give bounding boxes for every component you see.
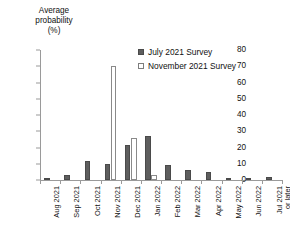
- x-axis-tick-label: Jun 2022: [255, 186, 263, 216]
- x-axis-tick-label: Nov 2021: [114, 186, 122, 218]
- x-axis-tick-mark: [181, 180, 182, 184]
- x-axis-tick-label: Apr 2022: [215, 186, 223, 216]
- legend-swatch-filled-dark-square-icon: [138, 49, 144, 55]
- y-axis-title-line-3: (%): [18, 26, 90, 36]
- y-axis-title-line-1: Average: [18, 6, 90, 16]
- legend-label-july: July 2021 Survey: [148, 48, 212, 57]
- x-axis-tick-mark: [80, 180, 81, 184]
- x-axis-tick-label: Aug 2021: [53, 186, 61, 218]
- x-axis-tick-label-line: Aug 2021: [53, 186, 61, 218]
- x-axis-tick-mark: [40, 180, 41, 184]
- bar: [85, 161, 91, 181]
- bar: [226, 178, 232, 180]
- x-axis-tick-label-line: May 2022: [235, 186, 243, 218]
- legend-item-november: November 2021 Survey: [138, 59, 236, 73]
- x-axis-tick-mark: [141, 180, 142, 184]
- bar: [105, 164, 111, 180]
- bar-chart: Average probability (%) 0102030405060708…: [0, 0, 290, 227]
- legend-label-november: November 2021 Survey: [148, 62, 236, 71]
- x-axis-tick-label: May 2022: [235, 186, 243, 218]
- legend-item-july: July 2021 Survey: [138, 45, 236, 59]
- y-axis-title: Average probability (%): [18, 6, 90, 37]
- x-axis-tick-mark: [282, 180, 283, 184]
- bar: [151, 175, 157, 180]
- x-axis-tick-label-line: Apr 2022: [215, 186, 223, 216]
- x-axis-tick-mark: [101, 180, 102, 184]
- x-axis-tick-label-line: or later: [285, 186, 290, 214]
- x-axis-tick-label-line: Jun 2022: [255, 186, 263, 216]
- x-axis-tick-mark: [242, 180, 243, 184]
- bar: [44, 178, 50, 180]
- x-axis-tick-label-line: Feb 2022: [174, 186, 182, 217]
- bar: [266, 177, 272, 180]
- y-axis-title-line-2: probability: [18, 16, 90, 26]
- x-axis-tick-label: Jul 2021or later: [276, 186, 290, 214]
- x-axis-tick-label-line: Dec 2021: [134, 186, 142, 218]
- x-axis-tick-mark: [262, 180, 263, 184]
- x-axis-tick-label: Oct 2021: [94, 186, 102, 216]
- x-axis-tick-label: Jan 2022: [154, 186, 162, 216]
- bar: [165, 165, 171, 180]
- bar: [246, 178, 252, 180]
- bar: [64, 175, 70, 180]
- x-axis-tick-label: Sep 2021: [73, 186, 81, 218]
- bar: [185, 170, 191, 180]
- bar: [131, 138, 137, 180]
- x-axis-tick-label-line: Jan 2022: [154, 186, 162, 216]
- x-axis-tick-mark: [201, 180, 202, 184]
- x-axis-tick-mark: [60, 180, 61, 184]
- bar: [125, 145, 131, 180]
- x-axis-tick-label: Feb 2022: [174, 186, 182, 217]
- x-axis-tick-label-line: Sep 2021: [73, 186, 81, 218]
- bar: [145, 136, 151, 180]
- x-axis-tick-mark: [161, 180, 162, 184]
- legend-swatch-open-white-square-icon: [138, 63, 144, 69]
- legend: July 2021 Survey November 2021 Survey: [138, 45, 236, 73]
- x-axis-tick-label: Mar 2022: [194, 186, 202, 217]
- x-axis-tick-label-line: Mar 2022: [194, 186, 202, 217]
- bar: [111, 66, 117, 180]
- x-axis-tick-mark: [121, 180, 122, 184]
- x-axis-tick-mark: [222, 180, 223, 184]
- x-axis-tick-label: Dec 2021: [134, 186, 142, 218]
- x-axis-tick-label-line: Oct 2021: [94, 186, 102, 216]
- x-axis-tick-label-line: Nov 2021: [114, 186, 122, 218]
- bar: [206, 172, 212, 180]
